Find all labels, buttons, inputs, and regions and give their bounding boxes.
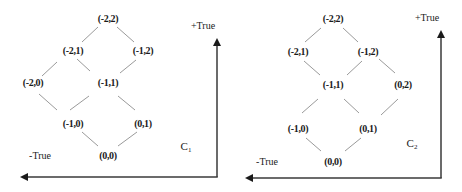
lattice-edge [344,99,359,113]
lattice-node: (0,0) [324,157,342,167]
lattice-edge [343,28,358,42]
lattice-node: (-2,2) [98,14,119,24]
lattice-edge [70,96,89,110]
lattice-edge [379,59,395,73]
lattice-edge [77,59,90,71]
lattice-edge [82,27,98,42]
lattice-edge [347,61,362,75]
positive-true-label: +True [415,13,439,23]
diagram-label-subscript: 1 [188,146,192,154]
lattice-edge [304,61,320,75]
lattice-node: (-1,1) [323,80,344,90]
lattice-node: (-2,2) [323,14,344,24]
diagram-label-subscript: 2 [414,143,418,151]
lattice-edge [302,99,318,113]
lattice-node: (-1,2) [358,47,379,57]
lattice-node: (-1,0) [288,124,309,134]
lattice-node: (-1,1) [98,78,119,88]
lattice-node: (0,2) [394,80,412,90]
lattice-edge [118,96,135,110]
lattice-edge [118,132,137,146]
lattice-edge [305,28,321,42]
lattice-edge [120,60,136,73]
lattice-node: (0,0) [99,151,117,161]
diagram-canvas [0,0,462,192]
lattice-edge [82,132,98,146]
diagram-label-c1: C1 [181,141,192,156]
lattice-edge [345,138,361,151]
edges-layer [39,27,398,151]
lattice-node: (-2,0) [23,78,44,88]
diagram-label-c2: C2 [407,138,418,153]
lattice-edge [39,94,57,110]
axes-layer [24,34,442,178]
negative-true-label: -True [256,157,278,167]
lattice-node: (-1,2) [133,46,154,56]
lattice-edge [42,62,57,76]
lattice-edge [117,27,134,42]
negative-true-label: -True [29,151,51,161]
positive-true-label: +True [191,21,215,31]
lattice-node: (-2,1) [63,46,84,56]
lattice-node: (0,1) [359,124,377,134]
lattice-node: (-1,0) [63,119,84,129]
lattice-edge [306,138,321,151]
lattice-edge [381,99,398,115]
lattice-node: (-2,1) [288,47,309,57]
lattice-node: (0,1) [134,119,152,129]
